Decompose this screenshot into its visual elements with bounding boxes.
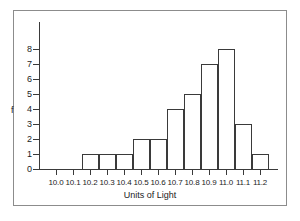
- histogram-bar: [150, 139, 167, 169]
- y-axis-tick-label: 1: [21, 150, 32, 159]
- y-axis-label: f: [11, 106, 14, 115]
- histogram-bar: [252, 154, 269, 169]
- histogram-bar: [167, 109, 184, 169]
- y-axis-tick: [33, 124, 40, 125]
- y-axis-tick: [33, 109, 40, 110]
- histogram-bar: [201, 64, 218, 169]
- y-axis-tick: [33, 49, 40, 50]
- x-axis-tick: [90, 170, 91, 175]
- y-axis-tick-label: 0: [21, 165, 32, 174]
- x-axis-tick: [158, 170, 159, 175]
- histogram-bar: [82, 154, 99, 169]
- x-axis-tick: [73, 170, 74, 175]
- histogram-bar: [218, 49, 235, 169]
- y-axis-tick-label: 2: [21, 135, 32, 144]
- x-axis-tick: [175, 170, 176, 175]
- x-axis-tick: [192, 170, 193, 175]
- x-axis-tick: [141, 170, 142, 175]
- histogram-bar: [99, 154, 116, 169]
- y-axis-tick: [33, 64, 40, 65]
- y-axis-tick-label: 6: [21, 75, 32, 84]
- x-axis-tick: [209, 170, 210, 175]
- x-axis-label: Units of Light: [0, 190, 300, 200]
- histogram-bar: [116, 154, 133, 169]
- x-axis-tick: [226, 170, 227, 175]
- y-axis-tick: [33, 79, 40, 80]
- y-axis-tick: [33, 154, 40, 155]
- y-axis-tick: [33, 139, 40, 140]
- y-axis-tick: [33, 169, 40, 170]
- y-axis-tick-label: 4: [21, 105, 32, 114]
- y-axis-line: [39, 22, 40, 170]
- x-axis-tick: [260, 170, 261, 175]
- x-axis-tick-label: 11.2: [248, 178, 272, 187]
- y-axis-tick-label: 8: [21, 45, 32, 54]
- histogram-bar: [235, 124, 252, 169]
- x-axis-tick: [243, 170, 244, 175]
- x-axis-tick: [107, 170, 108, 175]
- histogram-bar: [184, 94, 201, 169]
- y-axis-tick-label: 7: [21, 60, 32, 69]
- x-axis-tick: [124, 170, 125, 175]
- x-axis-tick: [56, 170, 57, 175]
- y-axis-tick-label: 5: [21, 90, 32, 99]
- histogram-figure: 012345678 10.010.110.210.310.410.510.610…: [0, 0, 300, 221]
- histogram-bar: [133, 139, 150, 169]
- y-axis-tick-label: 3: [21, 120, 32, 129]
- y-axis-tick: [33, 94, 40, 95]
- plot-area: 012345678 10.010.110.210.310.410.510.610…: [0, 0, 300, 221]
